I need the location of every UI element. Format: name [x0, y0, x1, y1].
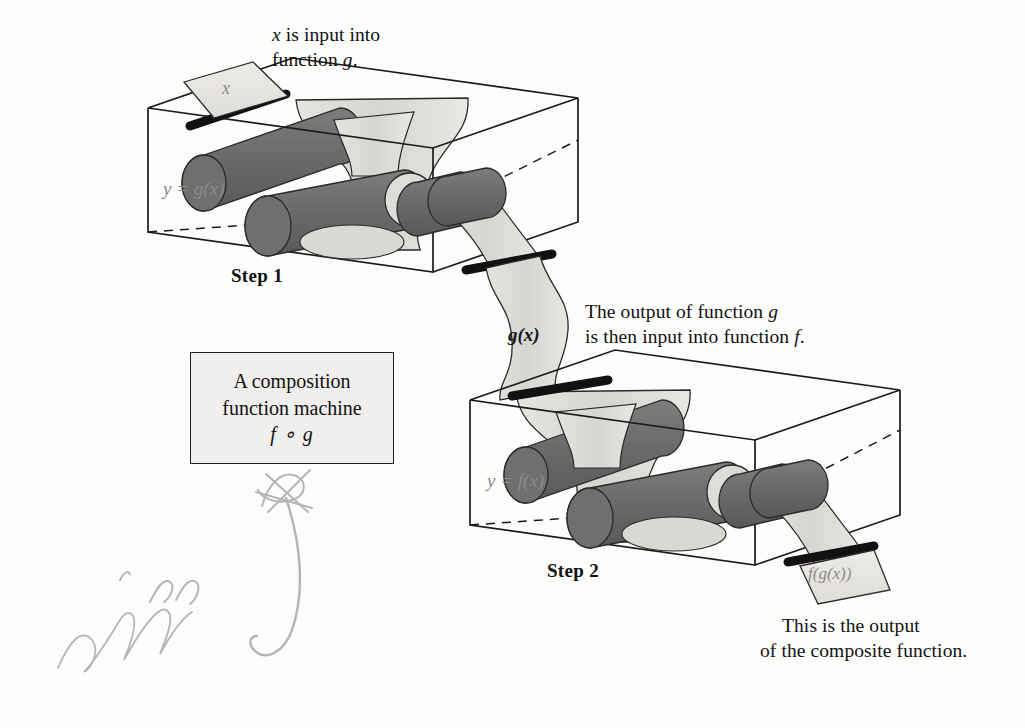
step1-machine: [148, 58, 578, 272]
caption-top-input: xx is input into is input into function …: [272, 22, 380, 72]
output-strip-label: f(g(x)): [808, 564, 851, 584]
caption-middle: The output of function g is then input i…: [585, 299, 805, 349]
step-1-label: Step 1: [231, 265, 283, 287]
step-1-machine-label: y = g(x): [163, 178, 224, 200]
machine-box-line3: f ∘ g: [270, 421, 314, 448]
machine-box-line1: A composition: [233, 368, 350, 395]
caption-top-line1-math: x: [272, 24, 281, 45]
composition-machine-box: A composition function machine f ∘ g: [190, 352, 394, 464]
handwritten-pencil-annotation: [58, 470, 312, 672]
input-strip-label: x: [222, 78, 230, 99]
caption-bottom: This is the output of the composite func…: [782, 613, 967, 663]
diagram-canvas: xx is input into is input into function …: [0, 0, 1025, 728]
intermediate-strip-label: g(x): [508, 324, 540, 346]
step-2-machine-label: y = f(x): [487, 470, 544, 492]
machine-box-line2: function machine: [222, 395, 361, 422]
step-2-label: Step 2: [547, 560, 599, 582]
